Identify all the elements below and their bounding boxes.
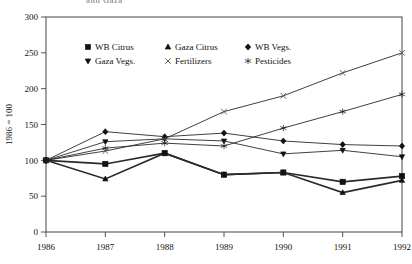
series-line-pesticides (46, 94, 402, 160)
data-point-fertilizers (281, 93, 287, 99)
star-icon (245, 58, 251, 64)
legend-label-gaza-citrus: Gaza Citrus (175, 42, 218, 52)
y-axis-tick-label: 300 (25, 12, 39, 22)
x-axis-tick-label: 1986 (37, 242, 56, 252)
filled-triangle-up-icon (165, 44, 171, 49)
data-point-wb-vegs (340, 142, 345, 148)
data-point-fertilizers (340, 70, 346, 76)
y-axis-tick-label: 100 (25, 156, 39, 166)
data-point-wb-vegs (103, 129, 108, 135)
legend-label-gaza-vegs: Gaza Vegs. (95, 56, 135, 66)
data-point-pesticides (340, 108, 346, 114)
data-point-wb-vegs (221, 130, 226, 136)
data-point-pesticides (399, 91, 405, 97)
clipped-figure-title: and Gaza (86, 0, 123, 5)
y-axis-title: 1986 = 100 (4, 103, 14, 145)
line-chart-svg: 0501001502002503001986 = 100198619871988… (0, 0, 412, 264)
data-point-fertilizers (221, 109, 227, 115)
chart-figure: and Gaza 0501001502002503001986 = 100198… (0, 0, 412, 264)
y-axis-tick-label: 250 (25, 48, 39, 58)
data-point-gaza-vegs (281, 152, 286, 157)
data-point-gaza-vegs (399, 155, 404, 160)
data-point-pesticides (280, 125, 286, 131)
legend-label-pesticides: Pesticides (255, 56, 291, 66)
x-axis-tick-label: 1987 (96, 242, 115, 252)
filled-square-icon (86, 45, 91, 50)
y-axis-tick-label: 150 (25, 120, 39, 130)
x-axis-tick-label: 1988 (156, 242, 175, 252)
filled-diamond-icon (245, 44, 251, 50)
data-point-wb-vegs (281, 138, 286, 144)
y-axis-tick-label: 50 (29, 191, 39, 201)
x-axis-tick-label: 1991 (334, 242, 352, 252)
data-point-wb-vegs (399, 143, 404, 149)
filled-triangle-down-icon (85, 59, 91, 64)
legend-label-wb-vegs: WB Vegs. (255, 42, 291, 52)
y-axis-tick-label: 200 (25, 84, 39, 94)
cross-x-icon (165, 58, 171, 64)
legend-label-fertilizers: Fertilizers (175, 56, 212, 66)
data-point-wb-citrus (103, 161, 108, 166)
x-axis-tick-label: 1990 (274, 242, 293, 252)
legend-label-wb-citrus: WB Citrus (95, 42, 134, 52)
x-axis-tick-label: 1989 (215, 242, 234, 252)
y-axis-tick-label: 0 (34, 227, 39, 237)
x-axis-tick-label: 1992 (393, 242, 411, 252)
data-point-wb-citrus (340, 179, 345, 184)
